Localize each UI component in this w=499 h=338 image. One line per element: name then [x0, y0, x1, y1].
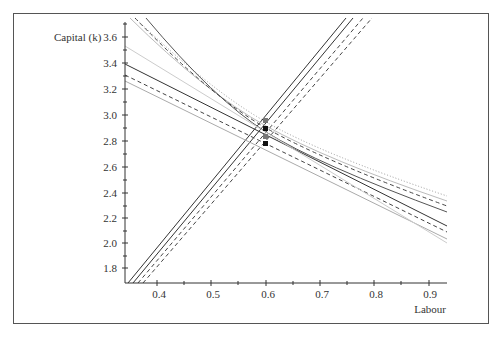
y-tick-label: 2.8 — [103, 135, 117, 147]
plot-lines — [125, 18, 447, 283]
marker-point — [263, 134, 268, 139]
x-tick-labels: 0.4 0.5 0.6 0.7 0.8 0.9 — [152, 288, 437, 300]
marker-point — [263, 118, 268, 123]
y-axis — [122, 22, 128, 283]
y-tick-label: 2.4 — [103, 187, 117, 199]
x-tick-label: 0.9 — [423, 288, 437, 300]
y-tick-label: 3.4 — [103, 57, 117, 69]
y-tick-label: 2.0 — [103, 237, 117, 249]
chart-canvas: 3.6 3.4 3.2 3.0 2.8 2.6 2.4 2.2 2.0 1.8 … — [0, 0, 499, 338]
marker-point — [263, 126, 268, 131]
x-tick-label: 0.8 — [369, 288, 383, 300]
y-tick-label: 2.6 — [103, 161, 117, 173]
x-axis — [125, 280, 447, 286]
y-tick-label: 3.2 — [103, 83, 117, 95]
y-tick-label: 1.8 — [103, 262, 117, 274]
y-axis-label: Capital (k) — [54, 31, 102, 44]
x-tick-label: 0.6 — [261, 288, 275, 300]
y-tick-labels: 3.6 3.4 3.2 3.0 2.8 2.6 2.4 2.2 2.0 1.8 — [103, 31, 117, 274]
y-tick-label: 3.6 — [103, 31, 117, 43]
y-tick-label: 3.0 — [103, 109, 117, 121]
y-tick-label: 2.2 — [103, 212, 117, 224]
x-axis-label: Labour — [414, 303, 446, 315]
x-tick-label: 0.4 — [152, 288, 166, 300]
x-tick-label: 0.5 — [206, 288, 220, 300]
marker-point — [263, 141, 268, 146]
x-tick-label: 0.7 — [315, 288, 329, 300]
